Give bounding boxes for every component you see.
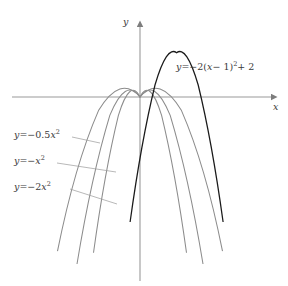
annotation-curve-half: y=−0.5x2: [14, 129, 60, 140]
annotation-two-pow: 2: [47, 180, 51, 188]
leader-line-two: [70, 189, 117, 204]
annotation-shift-mid: − 1): [212, 61, 233, 72]
annotation-one-pow: 2: [41, 154, 45, 162]
annotation-shift-tail: + 2: [237, 61, 254, 72]
annotation-shift-coef: −2(: [189, 61, 207, 72]
annotation-half-pow: 2: [56, 128, 60, 136]
annotation-curve-two: y=−2x2: [14, 181, 51, 192]
annotation-two-coef: −2: [27, 181, 41, 192]
y-axis-label: y: [123, 17, 128, 27]
parabola-figure: [0, 0, 288, 286]
annotation-half-coef: −0.5: [27, 129, 50, 140]
annotation-curve-shifted: y=−2(x− 1)2+ 2: [176, 61, 254, 72]
annotation-curve-one: y=−x2: [14, 155, 45, 166]
x-axis-label: x: [273, 102, 278, 112]
